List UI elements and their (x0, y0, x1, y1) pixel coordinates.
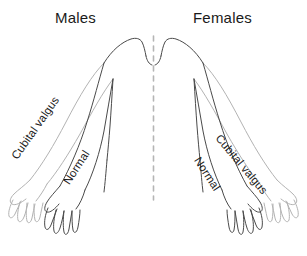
normal-finger-left-2 (54, 210, 64, 233)
cubital-valgus-figure: Males Females Cubital valgus Normal Cubi… (0, 0, 307, 256)
normal-hand-right-palm-edge (222, 190, 231, 209)
valgus-hand-left-palm-edge (36, 184, 47, 201)
neck-notch-left (146, 56, 152, 65)
torso-left-waist (104, 160, 107, 192)
anatomy-line-drawing (0, 0, 307, 256)
heading-females: Females (193, 9, 252, 26)
torso-right-side (194, 79, 200, 160)
normal-hand-left-thumb-side (45, 186, 60, 212)
valgus-finger-left-4 (34, 203, 43, 222)
normal-finger-left-3 (63, 211, 72, 234)
torso-left-side (107, 79, 113, 160)
valgus-hand-right-thumb-side (277, 180, 297, 205)
normal-finger-right-3 (235, 211, 244, 234)
normal-finger-right-4 (227, 210, 235, 232)
torso-left-shoulder-slope (104, 38, 146, 63)
valgus-hand-left-thumb-side (10, 180, 30, 205)
normal-finger-left-4 (72, 210, 80, 232)
torso-right-shoulder-slope (161, 38, 203, 63)
normal-finger-right-2 (243, 210, 253, 233)
valgus-finger-right-4 (264, 203, 273, 222)
heading-males: Males (55, 9, 96, 26)
normal-hand-left-palm-edge (76, 190, 85, 209)
normal-arm-left-inner-edge (85, 79, 113, 190)
neck-notch-right (155, 56, 161, 65)
